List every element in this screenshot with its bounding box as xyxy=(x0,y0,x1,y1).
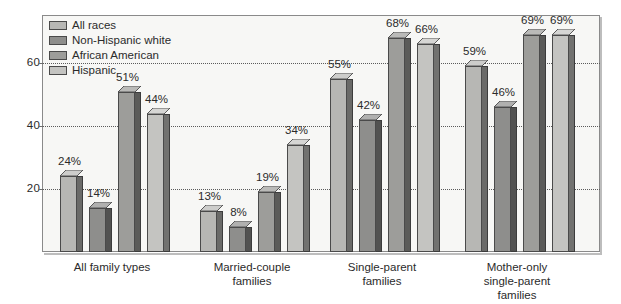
bar-value-label: 69% xyxy=(545,14,578,26)
bar[interactable] xyxy=(118,92,135,252)
bar-front-face xyxy=(359,120,376,252)
bar-top-face xyxy=(118,86,141,92)
bar-front-face xyxy=(494,107,511,252)
bar-front-face xyxy=(388,38,405,252)
bar-front-face xyxy=(60,176,77,252)
bar-front-face xyxy=(147,114,164,252)
bar[interactable] xyxy=(465,66,482,252)
bar-chart: 204060 24%14%51%44%13%8%19%34%55%42%68%6… xyxy=(0,0,621,304)
bar-side-face xyxy=(434,44,440,252)
bar-front-face xyxy=(229,227,246,252)
bar-value-label: 44% xyxy=(140,93,173,105)
bar-side-face xyxy=(569,35,575,252)
category-label: All family types xyxy=(52,260,172,274)
bar-top-face xyxy=(388,32,411,38)
legend-label: All races xyxy=(72,19,116,31)
bar[interactable] xyxy=(60,176,77,252)
bar-front-face xyxy=(89,208,106,252)
bar-front-face xyxy=(465,66,482,252)
y-axis-tick-mark xyxy=(38,63,43,64)
bar-value-label: 66% xyxy=(410,23,443,35)
bar-side-face xyxy=(540,35,546,252)
bar[interactable] xyxy=(330,79,347,252)
y-axis-tick: 40 xyxy=(0,119,40,133)
bar-top-face xyxy=(89,202,112,208)
bar-top-face xyxy=(229,221,252,227)
bar-side-face xyxy=(376,120,382,252)
bar[interactable] xyxy=(258,192,275,252)
bar[interactable] xyxy=(494,107,511,252)
bar[interactable] xyxy=(523,35,540,252)
bar[interactable] xyxy=(89,208,106,252)
bar-top-face xyxy=(552,29,575,35)
legend-item[interactable]: Hispanic xyxy=(49,63,161,77)
plot-frame-shadow-right xyxy=(600,17,602,255)
bar-value-label: 14% xyxy=(82,187,115,199)
bar-front-face xyxy=(417,44,434,252)
bar-side-face xyxy=(405,38,411,252)
category-label: Married-couple families xyxy=(192,260,312,288)
bar[interactable] xyxy=(229,227,246,252)
bar-value-label: 24% xyxy=(53,155,86,167)
y-axis-tick-label: 20 xyxy=(6,182,40,194)
legend-swatch-african-american xyxy=(49,51,67,60)
bar-top-face xyxy=(359,114,382,120)
bar-front-face xyxy=(330,79,347,252)
bar-top-face xyxy=(465,60,488,66)
bar[interactable] xyxy=(147,114,164,252)
bar-top-face xyxy=(287,139,310,145)
bar-value-label: 34% xyxy=(280,124,313,136)
legend: All races Non-Hispanic white African Ame… xyxy=(49,18,161,78)
bar-side-face xyxy=(135,92,141,252)
legend-item[interactable]: African American xyxy=(49,48,161,62)
y-axis-tick-mark xyxy=(38,126,43,127)
legend-label: African American xyxy=(72,49,159,61)
bar-top-face xyxy=(330,73,353,79)
bar-front-face xyxy=(258,192,275,252)
legend-item[interactable]: All races xyxy=(49,18,161,32)
bar[interactable] xyxy=(359,120,376,252)
bar-value-label: 42% xyxy=(352,99,385,111)
bar-side-face xyxy=(511,107,517,252)
bar-top-face xyxy=(494,101,517,107)
y-axis-tick: 60 xyxy=(0,56,40,70)
bar[interactable] xyxy=(417,44,434,252)
bar-front-face xyxy=(200,211,217,252)
legend-swatch-all-races xyxy=(49,21,67,30)
bar-value-label: 13% xyxy=(193,190,226,202)
y-axis-tick-mark xyxy=(38,189,43,190)
bar-top-face xyxy=(417,38,440,44)
bar[interactable] xyxy=(287,145,304,252)
bar-value-label: 8% xyxy=(222,206,255,218)
bar[interactable] xyxy=(388,38,405,252)
legend-item[interactable]: Non-Hispanic white xyxy=(49,33,161,47)
y-axis-tick-label: 60 xyxy=(6,56,40,68)
bar-value-label: 55% xyxy=(323,58,356,70)
bar-top-face xyxy=(200,205,223,211)
category-label: Mother-only single-parent families xyxy=(457,260,577,302)
bar-value-label: 59% xyxy=(458,45,491,57)
bar-side-face xyxy=(106,208,112,252)
bar-top-face xyxy=(258,186,281,192)
y-axis-tick-label: 40 xyxy=(6,119,40,131)
bar-side-face xyxy=(304,145,310,252)
legend-label: Non-Hispanic white xyxy=(72,34,171,46)
legend-swatch-non-hispanic-white xyxy=(49,36,67,45)
bar-front-face xyxy=(118,92,135,252)
y-axis-tick: 20 xyxy=(0,182,40,196)
bar-top-face xyxy=(60,170,83,176)
bar[interactable] xyxy=(552,35,569,252)
bar-side-face xyxy=(275,192,281,252)
bar-front-face xyxy=(523,35,540,252)
legend-swatch-hispanic xyxy=(49,66,67,75)
bar-top-face xyxy=(147,108,170,114)
plot-frame-shadow-bottom xyxy=(44,253,602,255)
bar-value-label: 46% xyxy=(487,86,520,98)
bar-side-face xyxy=(246,227,252,252)
bar-top-face xyxy=(523,29,546,35)
bar-front-face xyxy=(552,35,569,252)
bar-value-label: 19% xyxy=(251,171,284,183)
bar[interactable] xyxy=(200,211,217,252)
bar-side-face xyxy=(164,114,170,252)
bar-front-face xyxy=(287,145,304,252)
